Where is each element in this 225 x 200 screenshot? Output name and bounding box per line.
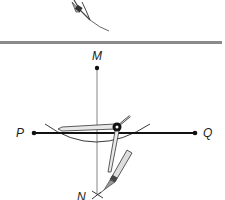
diagram: M P Q N bbox=[0, 0, 225, 200]
divider bbox=[0, 41, 222, 44]
point-P bbox=[32, 131, 37, 136]
label-Q: Q bbox=[203, 127, 212, 139]
point-M bbox=[95, 66, 99, 70]
compass-main-icon bbox=[58, 116, 132, 194]
label-P: P bbox=[16, 127, 24, 139]
point-Q bbox=[193, 131, 198, 136]
compass-top-partial-icon bbox=[72, 0, 109, 31]
label-N: N bbox=[77, 191, 86, 200]
label-M: M bbox=[92, 50, 102, 62]
